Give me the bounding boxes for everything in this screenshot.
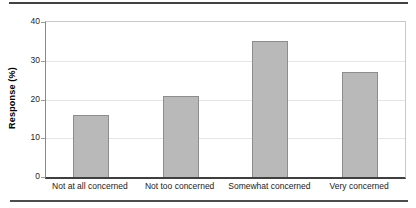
y-tick-label: 0 xyxy=(0,171,40,182)
y-tick-label: 30 xyxy=(0,55,40,66)
y-tick-mark xyxy=(41,177,45,178)
y-tick-label: 20 xyxy=(0,94,40,105)
bar-2 xyxy=(163,96,199,177)
y-tick-mark xyxy=(41,138,45,139)
x-category-label: Very concerned xyxy=(314,181,404,191)
bottom-rule xyxy=(10,200,408,202)
plot-area xyxy=(45,21,406,179)
x-category-label: Somewhat concerned xyxy=(224,181,314,191)
y-axis: 010203040 xyxy=(0,21,40,176)
top-rule xyxy=(9,2,408,4)
bar-chart-figure: Response (%) 010203040 Not at all concer… xyxy=(0,0,416,208)
y-tick-mark xyxy=(41,22,45,23)
bar-1 xyxy=(73,115,109,177)
y-tick-mark xyxy=(41,100,45,101)
x-category-label: Not at all concerned xyxy=(45,181,135,191)
y-tick-label: 10 xyxy=(0,132,40,143)
gridline xyxy=(46,61,405,62)
x-axis: Not at all concernedNot too concernedSom… xyxy=(45,181,404,195)
y-tick-label: 40 xyxy=(0,16,40,27)
bar-4 xyxy=(342,72,378,177)
bar-3 xyxy=(252,41,288,177)
y-tick-mark xyxy=(41,61,45,62)
x-category-label: Not too concerned xyxy=(135,181,225,191)
